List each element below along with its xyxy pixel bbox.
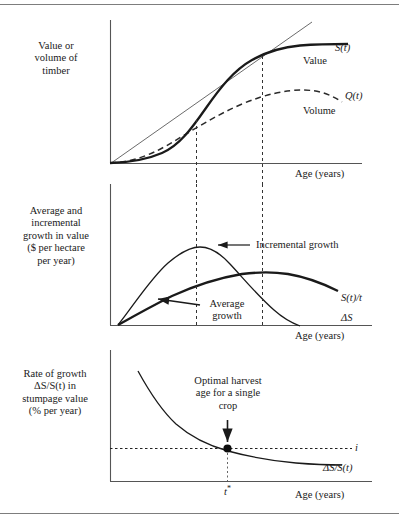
panel2-curve-label-delta-s: ΔS — [341, 312, 352, 324]
panel1-y-axis-label: Value or volume of timber — [8, 40, 104, 77]
panel1-curve-legend-value: Value — [303, 55, 327, 67]
panel3-x-axis-label: Age (years) — [295, 489, 344, 501]
panel1-x-axis-label: Age (years) — [295, 168, 344, 180]
panel1-curve-legend-volume: Volume — [303, 105, 335, 117]
panel2-curve-label-average: S(t)/t — [341, 292, 362, 304]
panel3-y-axis-label: Rate of growth ΔS/S(t) in stumpage value… — [2, 368, 108, 418]
panel2-y-axis-label: Average and incremental growth in value … — [4, 205, 108, 267]
optimal-age-star: * — [227, 484, 231, 493]
panel1-tangent-ray — [111, 22, 313, 164]
panel3-optimal-point-marker — [223, 444, 231, 452]
panel2-x-axis-label: Age (years) — [295, 330, 344, 342]
panel2-annotation-average-growth: Average growth — [196, 298, 258, 323]
panel3-interest-rate-label: i — [355, 442, 358, 453]
panel3-curve-label-rate: ΔS/S(t) — [323, 462, 353, 474]
panel3-annotation-optimal-harvest: Optimal harvest age for a single crop — [180, 375, 276, 412]
panel2-annotation-incremental-growth: Incremental growth — [256, 239, 339, 251]
panel3-optimal-age-tick-label: t* — [224, 486, 231, 497]
panel1-volume-curve — [110, 90, 342, 163]
panel1-curve-label-Q: Q(t) — [345, 90, 363, 102]
panel2-average-growth-arrow — [158, 299, 200, 305]
panel-value-volume-plot — [110, 20, 362, 186]
figure-container: Value or volume of timber S(t) Value Q(t… — [0, 0, 399, 529]
panel1-curve-label-S: S(t) — [335, 42, 350, 54]
